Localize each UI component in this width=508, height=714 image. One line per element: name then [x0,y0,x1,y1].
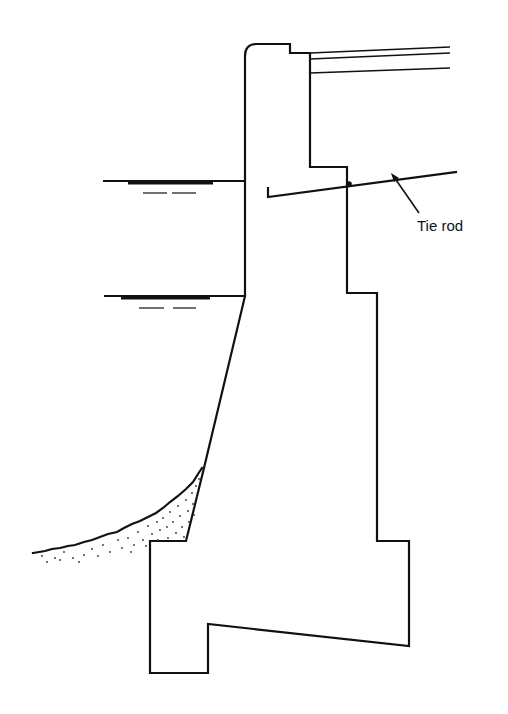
wall-body [150,44,409,673]
upper-water-level [103,181,245,193]
seabed-soil-fill [33,468,202,563]
tie-rod-label: Tie rod [417,217,463,234]
deck-slab-lines [310,47,450,73]
tie-rod [268,172,456,197]
lower-water-level [104,296,245,308]
diagram-canvas: Tie rod [0,0,508,714]
